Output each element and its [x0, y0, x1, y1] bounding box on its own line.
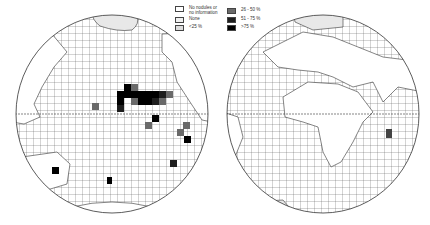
pacific-globe-map: [12, 12, 212, 217]
legend-item-lt25: <25 %: [175, 25, 202, 31]
atlantic-indian-globe-map: [223, 12, 423, 217]
legend-item-gt75: >75 %: [227, 25, 254, 31]
legend-item-none: None: [175, 17, 200, 23]
legend: No nodules or no information None <25 % …: [175, 6, 305, 36]
nodule-cell: [386, 129, 392, 138]
australia-land: [20, 152, 70, 190]
legend-item-26-50: 26 - 50 %: [227, 8, 260, 14]
legend-item-no-info: No nodules or no information: [175, 6, 218, 15]
legend-item-51-75: 51 - 75 %: [227, 17, 260, 23]
antarctica-land: [72, 202, 152, 217]
